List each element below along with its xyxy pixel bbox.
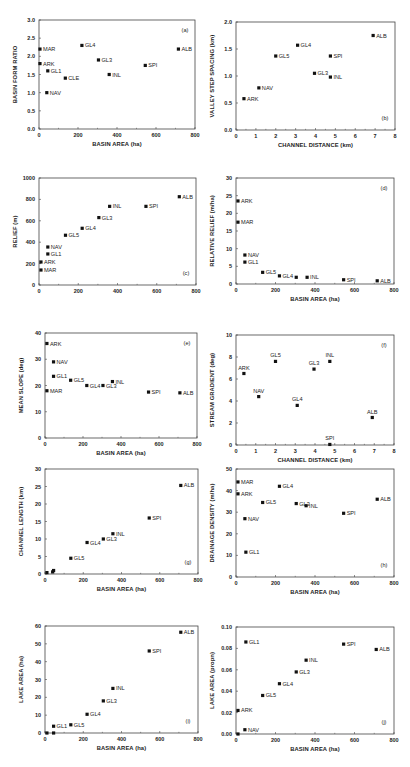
x-tick-label: 600 [350, 580, 359, 586]
data-point [342, 512, 345, 515]
data-point [144, 205, 147, 208]
x-tick-label: 200 [271, 287, 280, 293]
data-point [148, 649, 151, 652]
x-tick-label: 600 [155, 577, 164, 583]
y-tick-label: 40 [226, 488, 232, 494]
point-label: INL [113, 203, 122, 209]
x-tick-label: 1 [254, 133, 257, 139]
point-label: NAV [262, 85, 273, 91]
y-axis-label: MEAN SLOPE (deg) [18, 358, 24, 414]
data-point [144, 64, 147, 67]
y-tick-label: 0 [38, 730, 41, 736]
y-tick-label: 10 [35, 712, 41, 718]
y-axis-label: BASIN FORM RATIO [12, 45, 18, 103]
x-tick-label: 800 [190, 132, 199, 138]
y-tick-label: 25 [226, 193, 232, 199]
point-label: INL [116, 685, 125, 691]
x-tick-label: 600 [152, 288, 161, 294]
panel-label: (a) [182, 27, 189, 33]
data-point [274, 54, 277, 57]
data-point [243, 728, 246, 731]
data-point [242, 372, 245, 375]
point-label: SPI [148, 62, 157, 68]
x-tick-label: 600 [350, 287, 359, 293]
point-label: NAV [57, 359, 68, 365]
data-point [102, 537, 105, 540]
panel-a: 0.00.51.01.52.02.53.00200400600800BASIN … [12, 17, 200, 147]
y-tick-label: 1000 [23, 175, 35, 181]
data-point [236, 221, 239, 224]
data-point [178, 391, 181, 394]
data-point [278, 682, 281, 685]
data-point [244, 640, 247, 643]
x-tick-label: 6 [354, 133, 357, 139]
data-point [64, 77, 67, 80]
y-tick-label: 0.0 [224, 127, 232, 133]
x-tick-label: 400 [310, 580, 319, 586]
x-tick-label: 8 [393, 133, 396, 139]
point-label: GL5 [266, 269, 277, 275]
panel-j: 0.000.020.040.060.080.100200400600800BAS… [209, 624, 399, 752]
x-axis-label: BASIN AREA (ha) [97, 586, 146, 592]
data-point [261, 501, 264, 504]
data-point [261, 271, 264, 274]
data-point [296, 44, 299, 47]
point-label: GL5 [74, 555, 85, 561]
point-label: ARK [241, 491, 253, 497]
point-label: NAV [248, 727, 259, 733]
data-point [52, 731, 55, 734]
plot-frame [45, 333, 197, 438]
panel-label: (e) [184, 340, 191, 346]
panel-h: 010203040500200400600800BASIN AREA (ha)D… [209, 466, 399, 595]
y-tick-label: 0.00 [221, 731, 232, 737]
point-label: INL [115, 379, 124, 385]
y-tick-label: 0.06 [221, 667, 232, 673]
x-tick-label: 5 [333, 448, 336, 454]
point-label: SPI [325, 435, 334, 441]
point-label: GL3 [318, 70, 329, 76]
x-tick-label: 600 [155, 736, 164, 742]
plot-frame [236, 22, 395, 130]
plot-frame [236, 627, 394, 734]
y-tick-label: 1.0 [27, 90, 35, 96]
data-point [111, 532, 114, 535]
point-label: GL4 [282, 483, 293, 489]
point-label: INL [116, 531, 125, 537]
data-point [236, 480, 239, 483]
point-label: SPI [333, 53, 342, 59]
data-point [85, 713, 88, 716]
figure-canvas: 0.00.51.01.52.02.53.00200400600800BASIN … [0, 0, 410, 767]
x-tick-label: 200 [78, 441, 87, 447]
panel-label: (b) [382, 115, 389, 121]
x-axis-label: BASIN AREA (ha) [96, 450, 145, 456]
point-label: ALB [380, 496, 391, 502]
data-point [278, 485, 281, 488]
point-label: GL3 [102, 215, 113, 221]
panel-c: 020040060080010000200400600800RELIEF (m)… [12, 175, 201, 294]
point-label: ARK [44, 259, 56, 265]
point-label: ARK [247, 96, 259, 102]
point-label: GL5 [68, 232, 79, 238]
point-label: GL3 [299, 669, 310, 675]
panel-label: (i) [186, 718, 191, 724]
panel-b: 0.00.51.01.52.0012345678CHANNEL DISTANCE… [209, 19, 397, 148]
x-tick-label: 0 [234, 737, 237, 743]
x-tick-label: 800 [191, 288, 200, 294]
point-label: GL5 [74, 377, 85, 383]
x-tick-label: 3 [294, 133, 297, 139]
point-label: INL [309, 657, 318, 663]
data-point [236, 709, 239, 712]
y-tick-label: 2 [229, 420, 232, 426]
y-tick-label: 8 [229, 354, 232, 360]
x-tick-label: 3 [294, 448, 297, 454]
panel-label: (j) [382, 719, 387, 725]
y-tick-label: 0 [38, 435, 41, 441]
data-point [179, 631, 182, 634]
y-tick-label: 0 [229, 574, 232, 580]
y-tick-label: 0.0 [27, 126, 35, 132]
data-point [236, 492, 239, 495]
point-label: GL4 [282, 273, 293, 279]
y-axis-label: RELATIVE RELIEF (m/ha) [209, 195, 215, 267]
data-point [46, 245, 49, 248]
panel-d: 0510152025300200400600800BASIN AREA (ha)… [209, 175, 399, 302]
